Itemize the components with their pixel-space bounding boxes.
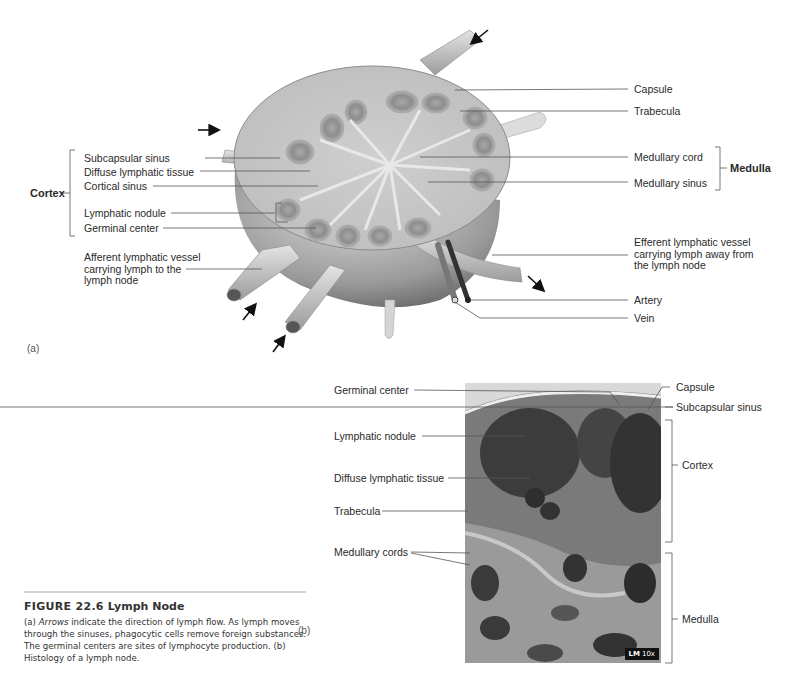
label-diffuse-lymphatic-tissue: Diffuse lymphatic tissue [84, 166, 194, 178]
label-trabecula: Trabecula [634, 105, 680, 117]
micro-label-diffuse-lymphatic-tissue: Diffuse lymphatic tissue [334, 472, 444, 484]
histology-micrograph: LM10x [465, 383, 661, 663]
label-capsule: Capsule [634, 83, 673, 95]
panel-a-tag: (a) [27, 343, 39, 354]
caption-divider [24, 591, 306, 593]
caption-part-a-marker: (a) [24, 617, 36, 627]
figure-number: FIGURE 22.6 [24, 600, 104, 613]
magnification-badge: LM10x [625, 648, 660, 660]
micro-label-capsule: Capsule [676, 381, 715, 393]
cortex-group-label: Cortex [30, 187, 65, 199]
label-medullary-cord: Medullary cord [634, 151, 703, 163]
micro-label-medullary-cords: Medullary cords [334, 546, 408, 558]
micro-label-trabecula: Trabecula [334, 505, 380, 517]
figure-caption-body: (a) Arrows indicate the direction of lym… [24, 616, 314, 664]
micro-label-cortex: Cortex [682, 459, 713, 471]
micro-label-subcapsular-sinus: Subcapsular sinus [676, 401, 762, 413]
medulla-group-label: Medulla [730, 162, 771, 174]
caption-part-b-marker: (b) [273, 641, 285, 651]
caption-text-2: Histology of a lymph node. [24, 653, 140, 663]
label-cortical-sinus: Cortical sinus [84, 180, 147, 192]
caption-arrows-word: Arrows [39, 617, 69, 627]
label-medullary-sinus: Medullary sinus [634, 177, 707, 189]
micro-label-medulla: Medulla [682, 613, 719, 625]
figure-title: Lymph Node [108, 600, 185, 613]
label-vein: Vein [634, 312, 654, 324]
figure-caption-title: FIGURE 22.6Lymph Node [24, 600, 184, 613]
label-subcapsular-sinus: Subcapsular sinus [84, 152, 170, 164]
label-efferent-vessel: Efferent lymphatic vessel carrying lymph… [634, 237, 754, 272]
label-germinal-center: Germinal center [84, 222, 159, 234]
label-lymphatic-nodule: Lymphatic nodule [84, 207, 166, 219]
label-artery: Artery [634, 294, 662, 306]
micro-label-lymphatic-nodule: Lymphatic nodule [334, 430, 416, 442]
micro-label-germinal-center: Germinal center [334, 384, 409, 396]
label-afferent-vessel: Afferent lymphatic vessel carrying lymph… [84, 252, 201, 287]
